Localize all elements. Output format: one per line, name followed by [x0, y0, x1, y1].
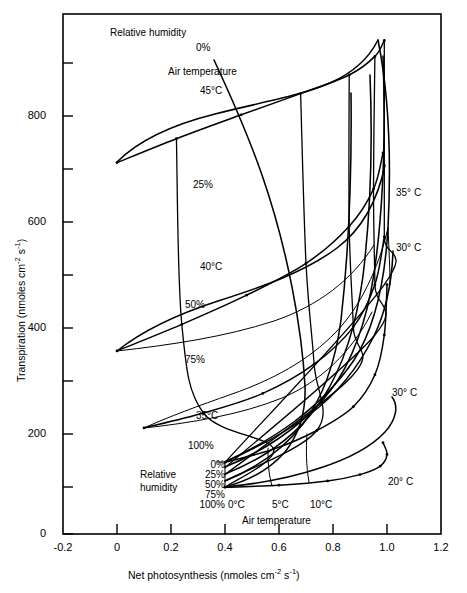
curve-isotherm-30C	[225, 251, 393, 462]
x-tick-label-08: 0.8	[312, 542, 354, 553]
annotation-25-percent: 25%	[193, 180, 213, 190]
mesh-node	[278, 484, 281, 487]
x-tick-label-02: 0.2	[150, 542, 192, 553]
x-tick-label-0: 0	[96, 542, 138, 553]
annotation-35C-inner: 35°C	[196, 411, 218, 421]
mesh-node	[386, 283, 389, 286]
y-axis-title-main: Transpiration (nmoles cm	[15, 264, 27, 382]
x-axis-title: Net photosynthesis (nmoles cm-2 s-1)	[128, 568, 300, 580]
legend-temperature-0C: 0°C	[228, 500, 245, 510]
annotation-45C: 45°C	[200, 86, 222, 96]
curve-isotherm-40C	[117, 165, 385, 351]
curve-rh-75	[225, 93, 351, 481]
y-tick-label-0: 0	[18, 528, 46, 539]
x-tick-label-neg02: -0.2	[42, 542, 84, 553]
annotation-relative-humidity-top: Relative humidity	[110, 28, 186, 38]
y-tick-label-800: 800	[18, 110, 46, 121]
mesh-node	[116, 350, 119, 353]
annotation-0-percent-top: 0%	[196, 43, 210, 53]
annotation-20C-right: 20° C	[388, 477, 413, 487]
mesh-node	[143, 427, 146, 430]
mesh-node	[374, 373, 377, 376]
mesh-node	[382, 441, 385, 444]
curve-isotherm-20C	[225, 397, 396, 487]
legend-temperature-5C: 5°C	[272, 500, 289, 510]
annotation-air-temperature-top: Air temperature	[168, 67, 237, 77]
annotation-50-percent: 50%	[185, 300, 205, 310]
annotation-100-percent-inner: 100%	[188, 441, 214, 451]
y-axis-title-end: )	[15, 239, 27, 243]
legend-temperature-10C: 10°C	[310, 500, 332, 510]
curve-isotherm-10C	[306, 434, 309, 482]
series-path-1	[117, 153, 383, 351]
series-path-2	[144, 237, 384, 428]
annotation-30C-right-upper: 30° C	[396, 243, 421, 253]
y-axis-title-sup1: -2	[13, 257, 22, 264]
curve-isotherm-35C	[144, 228, 388, 428]
y-tick-label-200: 200	[18, 428, 46, 439]
annotation-75-percent: 75%	[185, 355, 205, 365]
mesh-node	[359, 473, 362, 476]
annotation-30C-right-lower: 30° C	[392, 388, 417, 398]
mesh-node	[326, 480, 329, 483]
curve-isotherm-45C	[117, 40, 378, 162]
annotation-35C-right: 35° C	[396, 188, 421, 198]
x-axis-title-end: )	[296, 569, 300, 581]
figure-page: 800 600 400 200 0 -0.2 0 0.2 0.4 0.6 0.8…	[0, 0, 467, 593]
x-tick-label-10: 1.0	[366, 542, 408, 553]
y-tick-label-600: 600	[18, 216, 46, 227]
mesh-node	[386, 453, 389, 456]
y-axis-title: Transpiration (nmoles cm-2 s-1)	[14, 239, 26, 382]
legend-humidity-100: 100%	[190, 500, 225, 510]
mesh-node	[352, 405, 355, 408]
mesh-node	[116, 161, 119, 164]
y-axis-title-mid: s	[15, 249, 27, 257]
mesh-node	[240, 113, 243, 116]
mesh-node	[383, 334, 386, 337]
x-tick-label-06: 0.6	[258, 542, 300, 553]
mesh-node	[379, 465, 382, 468]
data-mesh	[116, 39, 397, 489]
x-axis-title-main: Net photosynthesis (nmoles cm	[128, 569, 274, 581]
y-axis-title-sup2: -1	[13, 242, 22, 249]
legend-title-line2: humidity	[140, 483, 177, 493]
mesh-node	[261, 392, 264, 395]
y-axis-ticks	[63, 63, 73, 534]
annotation-40C: 40°C	[200, 262, 222, 272]
mesh-node	[245, 294, 248, 297]
series-path-8	[225, 94, 323, 481]
x-tick-label-12: 1.2	[420, 542, 462, 553]
series-path-9	[176, 139, 273, 488]
legend-air-temperature-caption: Air temperature	[242, 516, 311, 526]
x-tick-label-04: 0.4	[204, 542, 246, 553]
legend-title-line1: Relative	[140, 470, 176, 480]
